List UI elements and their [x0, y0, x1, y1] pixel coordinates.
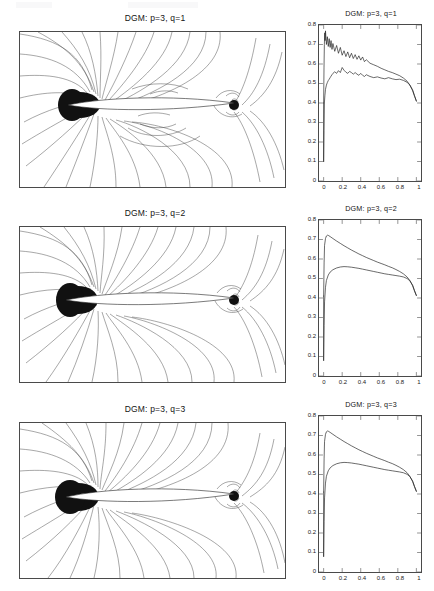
y-tick-7: 0.1 — [300, 548, 316, 554]
y-tick-3: 0.5 — [300, 79, 316, 85]
figure-row-q3: DGM: p=3, q=3 — [0, 391, 434, 588]
figure-row-q1: DGM: p=3, q=1 — [0, 0, 434, 197]
curve-lower-surface — [324, 267, 417, 361]
y-tick-3: 0.5 — [300, 470, 316, 476]
y-tick-4: 0.4 — [300, 490, 316, 496]
x-tick-1: 0.2 — [336, 184, 350, 190]
x-tick-4: 0.8 — [393, 379, 407, 385]
line-chart-q1 — [318, 24, 422, 182]
figure-row-q2: DGM: p=3, q=2 — [0, 195, 434, 392]
x-tick-3: 0.6 — [374, 379, 388, 385]
x-tick-5: 1 — [412, 575, 426, 581]
curve-upper-surface — [324, 431, 417, 492]
curve-lower-surface — [324, 462, 417, 556]
y-tick-0: 0.8 — [300, 21, 316, 27]
y-tick-5: 0.3 — [300, 509, 316, 515]
y-tick-2: 0.6 — [300, 255, 316, 261]
x-tick-1: 0.2 — [336, 575, 350, 581]
contour-plot-q1 — [19, 31, 286, 188]
y-tick-7: 0.1 — [300, 352, 316, 358]
curve-upper-surface — [324, 31, 417, 103]
y-tick-8: 0 — [300, 372, 316, 378]
contour-svg-q3 — [20, 423, 285, 578]
x-tick-5: 1 — [412, 184, 426, 190]
y-tick-0: 0.8 — [300, 412, 316, 418]
line-chart-q2 — [318, 219, 422, 377]
x-tick-0: 0 — [317, 379, 331, 385]
y-tick-5: 0.3 — [300, 313, 316, 319]
line-chart-svg-q2 — [319, 220, 421, 376]
x-tick-3: 0.6 — [374, 575, 388, 581]
x-tick-4: 0.8 — [393, 575, 407, 581]
y-tick-0: 0.8 — [300, 216, 316, 222]
contour-title-q2: DGM: p=3, q=2 — [60, 208, 250, 218]
x-axis-labels-q2: 0 0.2 0.4 0.6 0.8 1 — [318, 379, 422, 391]
line-chart-title-q3: DGM: p=3, q=3 — [318, 400, 424, 409]
y-axis-labels-q1: 0.8 0.7 0.6 0.5 0.4 0.3 0.2 0.1 0 — [298, 24, 316, 182]
y-tick-7: 0.1 — [300, 157, 316, 163]
y-tick-3: 0.5 — [300, 274, 316, 280]
contour-title-q3: DGM: p=3, q=3 — [60, 404, 250, 414]
x-tick-1: 0.2 — [336, 379, 350, 385]
x-tick-5: 1 — [412, 379, 426, 385]
x-tick-2: 0.4 — [355, 575, 369, 581]
y-tick-5: 0.3 — [300, 118, 316, 124]
contour-plot-q2 — [19, 226, 286, 383]
y-tick-2: 0.6 — [300, 60, 316, 66]
y-tick-6: 0.2 — [300, 529, 316, 535]
x-axis-labels-q3: 0 0.2 0.4 0.6 0.8 1 — [318, 575, 422, 587]
y-tick-1: 0.7 — [300, 235, 316, 241]
y-tick-8: 0 — [300, 177, 316, 183]
contour-svg-q1 — [20, 32, 285, 187]
y-tick-1: 0.7 — [300, 40, 316, 46]
y-tick-4: 0.4 — [300, 294, 316, 300]
x-tick-0: 0 — [317, 575, 331, 581]
line-chart-title-q2: DGM: p=3, q=2 — [318, 204, 424, 213]
x-tick-2: 0.4 — [355, 184, 369, 190]
x-tick-3: 0.6 — [374, 184, 388, 190]
curve-upper-surface — [324, 235, 417, 296]
contour-plot-q3 — [19, 422, 286, 579]
line-chart-q3 — [318, 415, 422, 573]
curve-lower-surface — [324, 68, 417, 162]
x-tick-4: 0.8 — [393, 184, 407, 190]
y-axis-labels-q3: 0.8 0.7 0.6 0.5 0.4 0.3 0.2 0.1 0 — [298, 415, 316, 573]
y-tick-2: 0.6 — [300, 451, 316, 457]
y-tick-8: 0 — [300, 568, 316, 574]
y-tick-4: 0.4 — [300, 99, 316, 105]
x-tick-0: 0 — [317, 184, 331, 190]
y-tick-6: 0.2 — [300, 138, 316, 144]
y-axis-labels-q2: 0.8 0.7 0.6 0.5 0.4 0.3 0.2 0.1 0 — [298, 219, 316, 377]
figure-page: DGM: p=3, q=1 — [0, 0, 434, 591]
y-tick-1: 0.7 — [300, 431, 316, 437]
y-tick-6: 0.2 — [300, 333, 316, 339]
line-chart-svg-q1 — [319, 25, 421, 181]
x-tick-2: 0.4 — [355, 379, 369, 385]
line-chart-title-q1: DGM: p=3, q=1 — [318, 9, 424, 18]
contour-title-q1: DGM: p=3, q=1 — [60, 13, 250, 23]
contour-svg-q2 — [20, 227, 285, 382]
line-chart-svg-q3 — [319, 416, 421, 572]
